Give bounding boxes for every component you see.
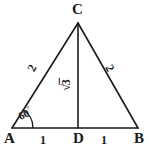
side-line-cb — [78, 23, 138, 128]
vertex-label-d: D — [73, 131, 84, 146]
radicand-value: 3 — [59, 78, 72, 85]
altitude-label-sqrt3: √3 — [59, 78, 72, 91]
segment-label-db: 1 — [101, 134, 107, 146]
vertex-label-a: A — [4, 131, 15, 146]
geometry-figure: C A B D 1 1 2 2 √3 60° — [0, 0, 149, 148]
triangle-drawing — [0, 0, 149, 148]
segment-label-ad: 1 — [40, 134, 46, 146]
vertex-label-b: B — [134, 131, 144, 146]
vertex-label-c: C — [72, 2, 83, 17]
